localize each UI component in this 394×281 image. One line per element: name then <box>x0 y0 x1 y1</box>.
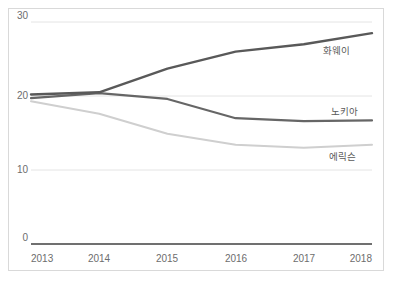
series-labels: 화웨이 노키아 에릭슨 <box>323 45 358 162</box>
x-tick-label-2014: 2014 <box>88 253 111 264</box>
chart-canvas: 30 20 10 0 2013 2014 2015 2016 2017 2018… <box>0 0 394 281</box>
series-lines <box>31 33 372 148</box>
series-line-nokia <box>31 93 372 121</box>
x-tick-label-2016: 2016 <box>225 253 248 264</box>
y-tick-label-30: 30 <box>17 10 29 21</box>
x-tick-label-2018: 2018 <box>350 253 373 264</box>
x-axis-tick-labels: 2013 2014 2015 2016 2017 2018 <box>31 253 372 264</box>
y-tick-label-0: 0 <box>22 232 28 243</box>
y-axis-tick-labels: 30 20 10 0 <box>17 10 29 243</box>
x-tick-label-2015: 2015 <box>156 253 179 264</box>
series-label-ericsson: 에릭슨 <box>329 151 356 162</box>
series-label-nokia: 노키아 <box>331 106 358 117</box>
series-line-huawei <box>31 33 372 94</box>
y-tick-label-20: 20 <box>17 90 29 101</box>
x-tick-label-2013: 2013 <box>31 253 54 264</box>
series-label-huawei: 화웨이 <box>323 45 350 56</box>
line-chart: 30 20 10 0 2013 2014 2015 2016 2017 2018… <box>0 0 394 281</box>
y-tick-label-10: 10 <box>17 164 29 175</box>
x-tick-label-2017: 2017 <box>293 253 316 264</box>
